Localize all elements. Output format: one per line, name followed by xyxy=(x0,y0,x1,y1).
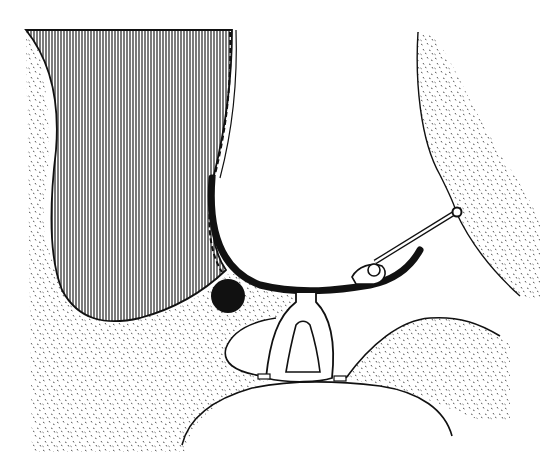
figure-canvas xyxy=(0,0,555,464)
anatomical-figure xyxy=(0,0,555,464)
stippled-tissue-right-lower xyxy=(346,318,510,420)
curved-black-band xyxy=(211,178,420,291)
left-connector xyxy=(258,374,270,379)
lower-joint-ball xyxy=(368,264,380,276)
upper-joint-ring xyxy=(453,208,462,217)
black-circle xyxy=(211,279,245,313)
right-connector xyxy=(334,376,346,381)
